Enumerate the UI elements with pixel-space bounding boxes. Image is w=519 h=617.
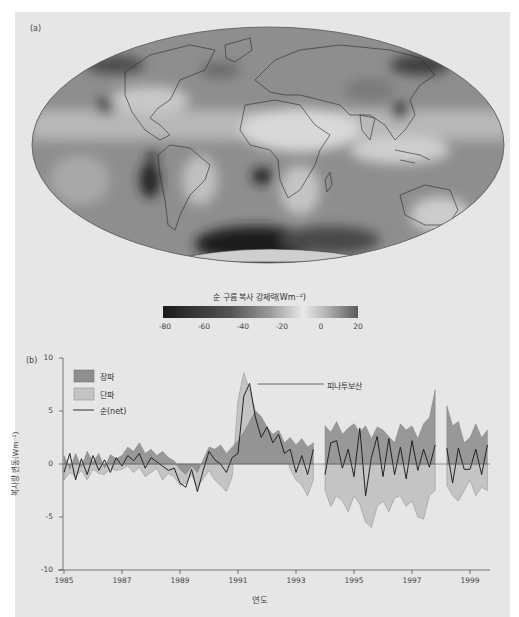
- x-tick: 1985: [54, 576, 73, 585]
- y-tick: 10: [23, 353, 53, 362]
- x-tick: 1987: [112, 576, 131, 585]
- y-tick: 5: [23, 406, 53, 415]
- y-tick: 0: [23, 459, 53, 468]
- legend-label-longwave: 장파: [100, 371, 114, 382]
- shortwave-area: [325, 464, 435, 528]
- legend-label-shortwave: 단파: [100, 389, 114, 400]
- x-tick: 1991: [228, 576, 247, 585]
- x-tick: 1999: [460, 576, 479, 585]
- x-tick: 1989: [170, 576, 189, 585]
- longwave-area: [447, 406, 488, 464]
- x-tick: 1993: [286, 576, 305, 585]
- y-tick: -5: [23, 512, 53, 521]
- legend-label-net: 순(net): [100, 405, 126, 416]
- legend-swatch-shortwave: [74, 388, 94, 400]
- x-tick: 1995: [344, 576, 363, 585]
- x-axis-label: 연도: [0, 593, 519, 605]
- y-axis-label: 복사량 변동(Wm⁻²): [9, 432, 20, 497]
- y-tick: -10: [23, 565, 53, 574]
- legend-swatch-longwave: [74, 370, 94, 382]
- time-series-chart: [0, 0, 519, 617]
- annotation-pinatubo: 피나투보산: [327, 380, 362, 391]
- longwave-area: [325, 390, 435, 464]
- x-tick: 1997: [402, 576, 421, 585]
